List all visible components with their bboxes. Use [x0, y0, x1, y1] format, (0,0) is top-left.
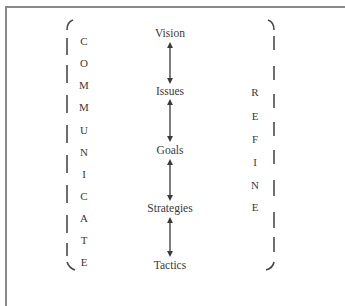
communicate-letter: A: [77, 213, 91, 224]
node-vision: Vision: [155, 28, 185, 40]
communicate-letter: C: [77, 191, 91, 202]
node-goals: Goals: [157, 145, 184, 157]
communicate-letter: E: [77, 257, 91, 268]
node-tactics: Tactics: [154, 260, 186, 272]
communicate-letter: N: [77, 147, 91, 158]
refine-letter: N: [248, 180, 262, 191]
node-strategies: Strategies: [147, 203, 192, 215]
refine-letter: E: [248, 202, 262, 213]
refine-letter: I: [248, 157, 262, 168]
refine-letter: R: [248, 87, 262, 98]
communicate-letter: M: [77, 80, 91, 91]
refine-letter: F: [248, 134, 262, 145]
right-bracket: [266, 20, 274, 270]
left-bracket: [67, 20, 75, 270]
communicate-letter: O: [77, 58, 91, 69]
node-issues: Issues: [156, 86, 184, 98]
communicate-letter: I: [77, 169, 91, 180]
communicate-letter: T: [77, 235, 91, 246]
refine-letter: E: [248, 111, 262, 122]
communicate-letter: C: [77, 36, 91, 47]
communicate-letter: M: [77, 102, 91, 113]
communicate-letter: U: [77, 125, 91, 136]
